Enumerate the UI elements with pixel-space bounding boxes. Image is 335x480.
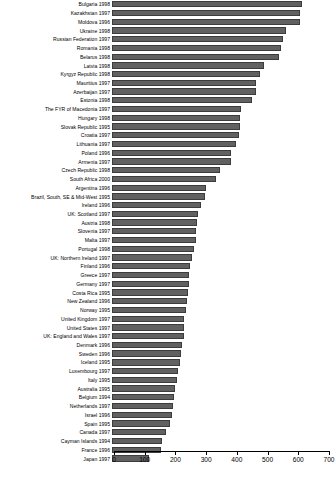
bar-row: Bulgaria 1998 (0, 0, 332, 9)
bar-category-label: Kyrgyz Republic 1998 (0, 71, 112, 77)
bar (112, 254, 192, 260)
bar-category-label: Romania 1998 (0, 45, 112, 51)
x-axis-tick (268, 451, 269, 455)
bar (112, 185, 206, 191)
bar (112, 176, 216, 182)
bar-row: Croatia 1997 (0, 131, 332, 140)
bar (112, 394, 174, 400)
bar-row: Lithuania 1997 (0, 140, 332, 149)
bar-row: Kazakhstan 1997 (0, 9, 332, 18)
bar-category-label: Belarus 1998 (0, 54, 112, 60)
bar-track (112, 140, 332, 149)
bar-track (112, 70, 332, 79)
bar (112, 263, 190, 269)
bar-track (112, 393, 332, 402)
bar-track (112, 26, 332, 35)
bar-track (112, 411, 332, 420)
x-axis-tick-label: 600 (293, 456, 304, 464)
bar-category-label: Belgium 1994 (0, 394, 112, 400)
bar-track (112, 349, 332, 358)
bar-row: Estonia 1998 (0, 96, 332, 105)
bar-category-label: The FYR of Macedonia 1997 (0, 106, 112, 112)
bar (112, 123, 240, 129)
x-axis-line (114, 451, 329, 452)
bar-row: Netherlands 1997 (0, 402, 332, 411)
bar-row: Portugal 1998 (0, 245, 332, 254)
bar-category-label: Ukraine 1998 (0, 28, 112, 34)
bar-category-label: Germany 1997 (0, 281, 112, 287)
bar-category-label: Sweden 1996 (0, 351, 112, 357)
bar-category-label: Kazakhstan 1997 (0, 10, 112, 16)
bar-category-label: Norway 1995 (0, 307, 112, 313)
bar-category-label: Italy 1995 (0, 377, 112, 383)
bar (112, 333, 184, 339)
bar-row: South Africa 2000 (0, 175, 332, 184)
bar-row: Israel 1996 (0, 411, 332, 420)
bar-row: Australia 1995 (0, 384, 332, 393)
bar (112, 27, 286, 33)
x-axis-tick (114, 451, 115, 455)
bar-track (112, 323, 332, 332)
bar-category-label: Czech Republic 1998 (0, 167, 112, 173)
bar-category-label: Croatia 1997 (0, 132, 112, 138)
bar-row: Malta 1997 (0, 236, 332, 245)
bar-row: Belgium 1994 (0, 393, 332, 402)
bar-category-label: Mauritius 1997 (0, 80, 112, 86)
bar (112, 54, 279, 60)
bar (112, 219, 197, 225)
bar-row: Italy 1995 (0, 376, 332, 385)
bar-track (112, 376, 332, 385)
bar-row: Brazil, South, SE & Mid-West 1995 (0, 192, 332, 201)
bar (112, 316, 184, 322)
bar-track (112, 297, 332, 306)
bar-row: Czech Republic 1998 (0, 166, 332, 175)
bar-category-label: Poland 1996 (0, 150, 112, 156)
bar-category-label: Luxembourg 1997 (0, 368, 112, 374)
bar-row: Mauritius 1997 (0, 79, 332, 88)
bar-category-label: Iceland 1995 (0, 359, 112, 365)
x-axis-tick-label: 700 (323, 456, 334, 464)
bar-row: Slovenia 1997 (0, 227, 332, 236)
bar-category-label: Russian Federation 1997 (0, 36, 112, 42)
bar-category-label: Argentina 1996 (0, 185, 112, 191)
bar-row: UK: Northern Ireland 1997 (0, 253, 332, 262)
bar-track (112, 245, 332, 254)
x-axis-tick (298, 451, 299, 455)
bar-row: Hungary 1998 (0, 114, 332, 123)
bar-row: UK: England and Wales 1997 (0, 332, 332, 341)
bar-category-label: Lithuania 1997 (0, 141, 112, 147)
bar-category-label: Greece 1997 (0, 272, 112, 278)
bar (112, 150, 231, 156)
bar-track (112, 114, 332, 123)
bar-track (112, 210, 332, 219)
bar (112, 19, 300, 25)
bar (112, 36, 283, 42)
bar-category-label: Austria 1998 (0, 220, 112, 226)
bar-row: New Zealand 1996 (0, 297, 332, 306)
bar-track (112, 166, 332, 175)
bar-track (112, 175, 332, 184)
bar-track (112, 227, 332, 236)
bar-track (112, 280, 332, 289)
bar-category-label: Armenia 1997 (0, 159, 112, 165)
bar (112, 324, 184, 330)
bar-track (112, 87, 332, 96)
bar-row: Spain 1995 (0, 419, 332, 428)
bar (112, 420, 170, 426)
bar (112, 272, 189, 278)
x-axis-tick (145, 451, 146, 455)
bar-row: Armenia 1997 (0, 157, 332, 166)
bar (112, 368, 178, 374)
bar (112, 132, 239, 138)
bar-category-label: United Kingdom 1997 (0, 316, 112, 322)
bar (112, 80, 256, 86)
bar (112, 350, 181, 356)
bar-row: United Kingdom 1997 (0, 314, 332, 323)
bar-category-label: Bulgaria 1998 (0, 1, 112, 7)
x-axis: 0100200300400500600700 (0, 451, 332, 480)
bar (112, 307, 186, 313)
bar-row: Norway 1995 (0, 306, 332, 315)
bar-row: Romania 1998 (0, 44, 332, 53)
bar-category-label: Costa Rica 1995 (0, 290, 112, 296)
bar-category-label: Israel 1996 (0, 412, 112, 418)
